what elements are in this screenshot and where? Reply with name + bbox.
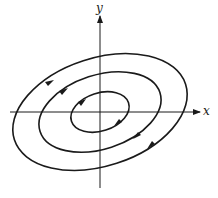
- flow-arrow-icon: [45, 80, 54, 86]
- y-axis-label: y: [96, 2, 103, 14]
- x-axis-label: x: [203, 105, 210, 117]
- phase-portrait-diagram: y x: [0, 0, 218, 198]
- diagram-canvas: [0, 0, 218, 198]
